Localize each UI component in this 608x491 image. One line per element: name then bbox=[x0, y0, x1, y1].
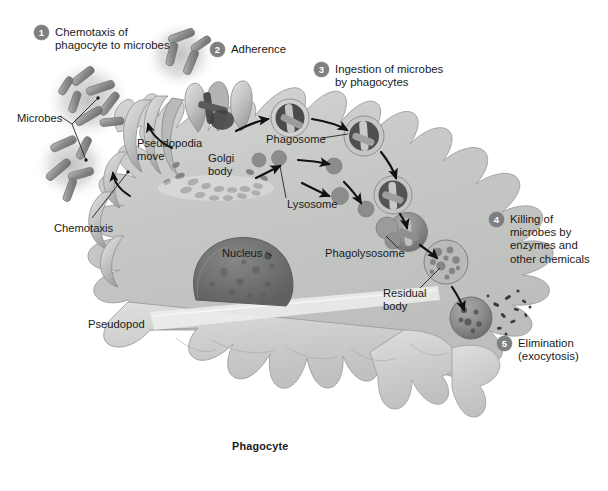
label-phagolysosome: Phagolysosome bbox=[325, 247, 405, 260]
label-pseudopodia-move: Pseudopodia move bbox=[137, 137, 202, 163]
step-badge-4: 4 bbox=[489, 212, 504, 227]
phagosome-2 bbox=[344, 116, 384, 156]
label-phagosome: Phagosome bbox=[266, 133, 326, 146]
step-badge-3: 3 bbox=[314, 62, 329, 77]
pseudopodia-adherence bbox=[185, 81, 252, 132]
phagosome-1 bbox=[271, 99, 309, 137]
step-callout-3[interactable]: 3 Ingestion of microbes by phagocytes bbox=[314, 62, 443, 89]
step-label-5: Elimination (exocytosis) bbox=[518, 337, 579, 364]
step-badge-2: 2 bbox=[210, 42, 225, 57]
phagosome-3 bbox=[374, 176, 412, 214]
step-label-3: Ingestion of microbes by phagocytes bbox=[335, 63, 443, 90]
label-microbes: Microbes bbox=[17, 112, 62, 125]
step-callout-5[interactable]: 5 Elimination (exocytosis) bbox=[497, 336, 579, 363]
step-callout-1[interactable]: 1 Chemotaxis of phagocyte to microbes bbox=[34, 25, 170, 52]
step-badge-1: 1 bbox=[34, 25, 49, 40]
label-golgi-body: Golgi body bbox=[208, 152, 234, 178]
step-badge-5: 5 bbox=[497, 336, 512, 351]
step-callout-4[interactable]: 4 Killing of microbes by enzymes and oth… bbox=[489, 212, 590, 266]
label-phagocyte: Phagocyte bbox=[232, 440, 288, 453]
label-lysosome: Lysosome bbox=[287, 198, 338, 211]
label-chemotaxis: Chemotaxis bbox=[54, 222, 113, 235]
step-label-2: Adherence bbox=[231, 43, 286, 56]
label-pseudopod: Pseudopod bbox=[88, 318, 145, 331]
step-callout-2[interactable]: 2 Adherence bbox=[210, 42, 286, 57]
label-nucleus: Nucleus bbox=[222, 247, 262, 260]
step-label-1: Chemotaxis of phagocyte to microbes bbox=[55, 26, 170, 53]
step-label-4: Killing of microbes by enzymes and other… bbox=[510, 213, 590, 267]
label-residual-body: Residual body bbox=[383, 287, 427, 313]
phagocytosis-diagram: 1 Chemotaxis of phagocyte to microbes 2 … bbox=[0, 0, 608, 491]
